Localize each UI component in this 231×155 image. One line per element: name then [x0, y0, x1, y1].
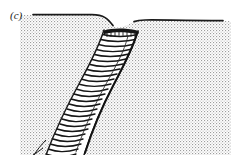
- panel-label: (c): [10, 10, 22, 21]
- figure-panel: (c): [0, 0, 231, 155]
- cross-section-drawing: [0, 0, 231, 155]
